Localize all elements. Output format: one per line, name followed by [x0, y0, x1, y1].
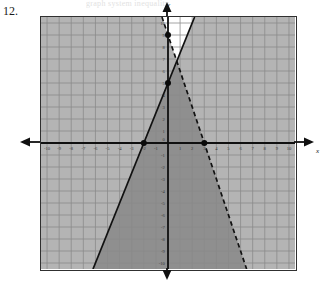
worksheet-figure: graph system inequality 12. -10-9-8-7-6-…	[0, 0, 332, 284]
point-y-intercept-dashed	[165, 32, 171, 38]
x-axis-right-arrow	[304, 138, 314, 147]
graph-svg: -10-9-8-7-6-5-4-3-2-11234567891010987654…	[41, 17, 295, 269]
coordinate-plane: -10-9-8-7-6-5-4-3-2-11234567891010987654…	[40, 16, 297, 271]
point-x-intercept-solid	[141, 140, 147, 146]
y-axis-label: y	[167, 1, 170, 9]
problem-number: 12.	[3, 4, 18, 19]
point-x-intercept-dashed	[201, 140, 207, 146]
y-tick-label--10: -10	[159, 261, 166, 266]
x-tick-label-10: 10	[287, 146, 292, 151]
x-tick-label--10: -10	[44, 146, 51, 151]
y-axis-bottom-arrow	[163, 270, 172, 280]
x-axis-left-arrow	[20, 138, 30, 147]
point-y-intercept-solid	[165, 80, 171, 86]
page-bleedthrough-text: graph system inequality	[86, 0, 256, 11]
x-axis-label: x	[316, 147, 319, 155]
coordinate-plane-canvas: -10-9-8-7-6-5-4-3-2-11234567891010987654…	[41, 17, 296, 270]
